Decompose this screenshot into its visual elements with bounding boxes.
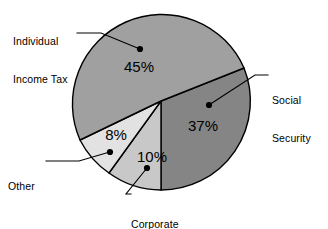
value-label-other: 8% xyxy=(105,126,127,143)
category-label-social-security-line2: Security xyxy=(272,132,311,145)
leader-dot-social-security xyxy=(206,102,212,108)
category-label-corporate-income-tax-line1: Corporate xyxy=(131,218,186,229)
leader-dot-individual-income-tax xyxy=(137,46,143,52)
category-label-corporate-income-tax: Corporate Income Tax xyxy=(131,193,186,229)
category-label-other-line1: Other xyxy=(8,180,35,193)
value-label-corporate-income-tax: 10% xyxy=(137,148,167,165)
category-label-individual-income-tax-line1: Individual xyxy=(13,35,68,48)
value-label-social-security: 37% xyxy=(188,117,218,134)
pie-chart-figure: 45% 37% 10% 8% Individual Income Tax Soc… xyxy=(0,0,328,229)
category-label-social-security-line1: Social xyxy=(272,94,311,107)
category-label-social-security: Social Security xyxy=(272,69,311,169)
leader-dot-other xyxy=(107,149,113,155)
category-label-individual-income-tax: Individual Income Tax xyxy=(13,10,68,110)
category-label-individual-income-tax-line2: Income Tax xyxy=(13,73,68,86)
value-label-individual-income-tax: 45% xyxy=(124,58,154,75)
leader-dot-corporate-income-tax xyxy=(144,165,150,171)
category-label-other: Other xyxy=(8,155,35,218)
